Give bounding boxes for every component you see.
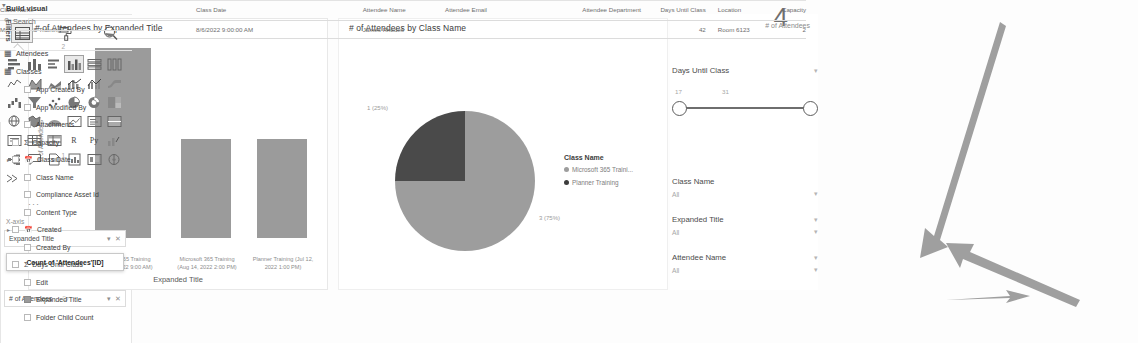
field-app-modified-by[interactable]: App Modified By: [4, 99, 148, 117]
search-input[interactable]: Search: [13, 17, 36, 26]
field-class-date[interactable]: ▸ 📅 Class Date: [4, 151, 148, 169]
legend-swatch-icon: [564, 167, 569, 172]
field-checkbox[interactable]: [12, 156, 19, 163]
column-header-location[interactable]: Location: [712, 6, 767, 13]
column-header-attendee-department[interactable]: Attendee Department: [582, 6, 653, 13]
field-label: Capacity: [32, 139, 59, 146]
bar-category-label: Planner Training (Jul 12, 2022 1:00 PM): [252, 256, 314, 271]
pie-chart-visual[interactable]: # of Attendees by Class Name 1 (25%) 3 (…: [338, 18, 668, 290]
legend-item[interactable]: Planner Training: [564, 179, 664, 186]
field-label: Content Type: [36, 209, 77, 216]
field-checkbox[interactable]: [24, 174, 31, 181]
slider-handle-left[interactable]: [672, 101, 687, 116]
field-checkbox[interactable]: [12, 226, 19, 233]
column-header-class-date[interactable]: Class Date: [196, 6, 363, 13]
column-header-days-until-class[interactable]: Days Until Class: [653, 6, 712, 13]
slider-handle-right[interactable]: [803, 101, 818, 116]
annotation-arrow-to-x-axis-well: [920, 22, 1006, 258]
field-created[interactable]: ▸ 📅 Created: [4, 221, 148, 239]
field-checkbox[interactable]: [24, 314, 31, 321]
field-capacity[interactable]: Σ Capacity: [4, 134, 148, 152]
column-header-attendee-email[interactable]: Attendee Email: [445, 6, 582, 13]
sum-aggregate-icon: Σ: [24, 139, 28, 146]
fields-table-label: Classes: [16, 67, 42, 76]
slicer-class-name-value: All: [672, 191, 679, 198]
field-label: Edit: [36, 279, 48, 286]
field-class-name[interactable]: Class Name: [4, 169, 148, 187]
field-label: Created: [37, 226, 62, 233]
bar-category-label: Microsoft 365 Training (Aug 14, 2022 2:0…: [176, 256, 238, 271]
chevron-down-icon[interactable]: ▾: [814, 216, 818, 224]
column-header-attendee-name[interactable]: Attendee Name: [363, 6, 445, 13]
field-label: Class Date: [37, 156, 71, 163]
slicer-attendee-name-label: Attendee Name: [672, 253, 726, 262]
field-compliance-asset-id[interactable]: Compliance Asset Id: [4, 186, 148, 204]
slicer-days-until-class[interactable]: Days Until Class ▾: [672, 66, 818, 75]
field-attachments[interactable]: Attachments: [4, 116, 148, 134]
cell-attendee-email: [445, 26, 582, 33]
cell-class-date: 8/6/2022 9:00:00 AM: [196, 26, 363, 33]
annotation-arrow-to-remove-field: [946, 243, 1080, 307]
slider-track-line: [684, 107, 806, 109]
pie-chart-graphic[interactable]: [395, 111, 535, 251]
expand-chevron-icon[interactable]: ▸: [4, 226, 12, 233]
chevron-down-icon[interactable]: ▾: [814, 190, 818, 198]
field-label: Expanded Title: [36, 296, 82, 303]
fields-table-attendees[interactable]: ▦ Attendees: [4, 44, 148, 62]
field-checkbox[interactable]: [12, 261, 19, 268]
table-icon: ▦: [4, 49, 12, 58]
chevron-down-icon[interactable]: ▾: [814, 228, 818, 236]
field-label: App Modified By: [36, 104, 86, 111]
fields-table-classes[interactable]: ▦ Classes: [4, 62, 148, 80]
field-label: Created By: [36, 244, 70, 251]
field-created-by[interactable]: Created By: [4, 239, 148, 257]
field-checkbox[interactable]: [24, 121, 31, 128]
annotation-arrow-to-expanded-title-field: [946, 290, 1030, 303]
field-checkbox[interactable]: [12, 139, 19, 146]
fields-search-row[interactable]: ⚲ Search: [4, 14, 144, 28]
field-checkbox[interactable]: [24, 209, 31, 216]
column-header-capacity[interactable]: Capacity: [767, 6, 806, 13]
slicer-expanded-title[interactable]: Expanded Title ▾ All ▾: [672, 215, 818, 236]
slicer-expanded-title-label: Expanded Title: [672, 215, 724, 224]
powerbi-report-canvas: # of Attendees by Expanded Title # of At…: [0, 0, 1138, 343]
chevron-down-icon[interactable]: ▾: [814, 254, 818, 262]
field-checkbox[interactable]: [24, 104, 31, 111]
bar-series-item[interactable]: [181, 139, 231, 238]
field-checkbox[interactable]: [24, 86, 31, 93]
slider-min-value: 17: [675, 88, 682, 95]
field-checkbox[interactable]: [24, 191, 31, 198]
field-checkbox[interactable]: [24, 244, 31, 251]
table-header-row: Class Name Class Date Attendee Name Atte…: [0, 6, 806, 13]
slicer-class-name-label: Class Name: [672, 177, 714, 186]
bar-series-item[interactable]: [257, 139, 307, 238]
legend-item-label: Microsoft 365 Traini...: [572, 166, 633, 173]
legend-item[interactable]: Microsoft 365 Traini...: [564, 166, 664, 173]
build-visual-title: Build visual: [6, 4, 47, 13]
cell-days-until-class: 42: [653, 26, 712, 33]
calendar-icon: 📅: [24, 226, 33, 234]
field-expanded-title[interactable]: Expanded Title: [4, 291, 148, 309]
field-app-created-by[interactable]: App Created By: [4, 81, 148, 99]
chevron-down-icon[interactable]: ▾: [814, 266, 818, 274]
expand-chevron-icon[interactable]: ▸: [4, 156, 12, 163]
field-checkbox[interactable]: [24, 279, 31, 286]
cell-capacity: 2: [767, 26, 806, 33]
days-until-class-range-slider[interactable]: 17 31: [672, 88, 818, 116]
field-checkbox[interactable]: [24, 296, 31, 303]
slicer-attendee-name[interactable]: Attendee Name ▾ All ▾: [672, 253, 818, 274]
pie-data-label-large: 3 (75%): [539, 215, 560, 221]
cell-attendee-name: James Rhodes: [363, 26, 445, 33]
field-label: Folder Child Count: [36, 314, 93, 321]
fields-table-label: Attendees: [16, 49, 48, 58]
field-label: Attachments: [36, 121, 74, 128]
field-folder-child-count[interactable]: Folder Child Count: [4, 309, 148, 327]
field-edit[interactable]: Edit: [4, 274, 148, 292]
cell-location: Room 6123: [712, 26, 767, 33]
field-days-until-class[interactable]: Σ Days Until Class: [4, 256, 148, 274]
slicer-class-name[interactable]: Class Name All ▾: [672, 177, 818, 198]
search-icon: ⚲: [4, 17, 9, 25]
field-content-type[interactable]: Content Type: [4, 204, 148, 222]
chevron-down-icon[interactable]: ▾: [814, 67, 818, 75]
legend-item-label: Planner Training: [572, 179, 619, 186]
